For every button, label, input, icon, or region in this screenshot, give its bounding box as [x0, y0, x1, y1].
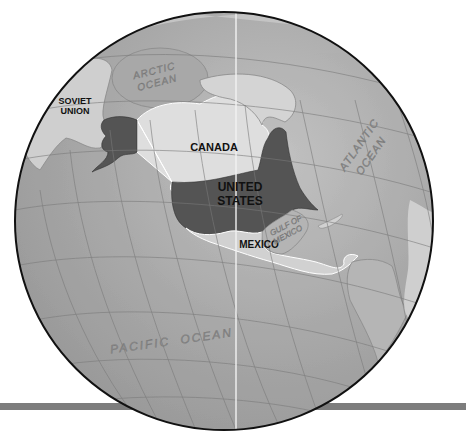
label-soviet-union-1: SOVIET — [58, 96, 92, 106]
label-canada: CANADA — [190, 141, 238, 153]
label-soviet-union-2: UNION — [61, 106, 90, 116]
label-united-states-1: UNITED — [218, 180, 263, 194]
land-africa-edge — [404, 200, 440, 360]
label-united-states-2: STATES — [217, 194, 263, 208]
globe-map: SOVIET UNION CANADA UNITED STATES MEXICO… — [0, 0, 466, 431]
